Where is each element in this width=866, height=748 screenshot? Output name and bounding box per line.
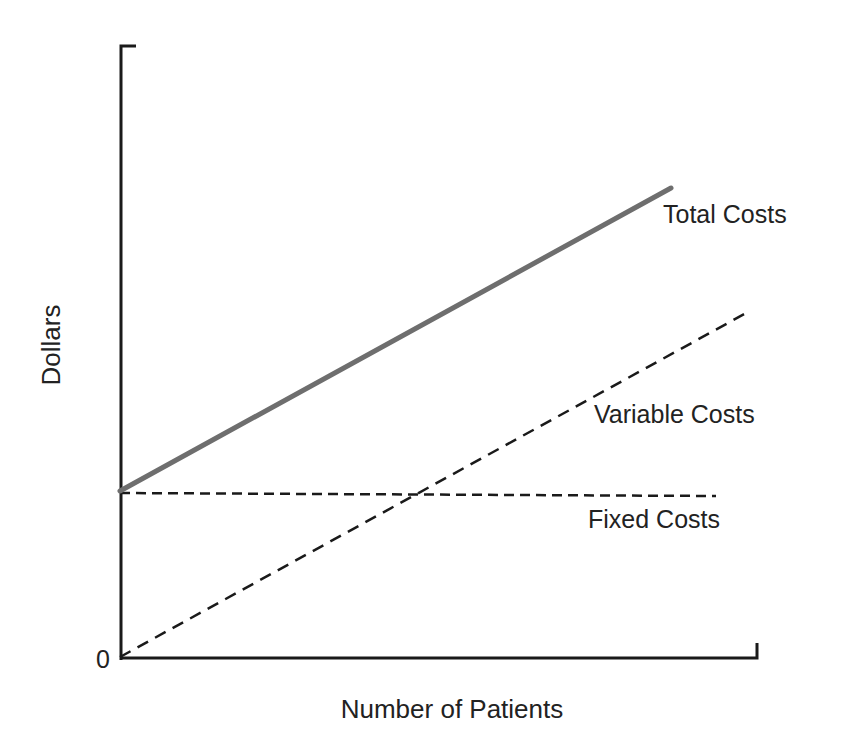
- y-axis: [121, 46, 136, 660]
- y-axis-label: Dollars: [36, 305, 66, 386]
- total-costs-line: [120, 188, 671, 491]
- origin-label: 0: [96, 645, 110, 673]
- variable-costs-line: [120, 312, 748, 657]
- x-axis: [121, 643, 757, 658]
- total-costs-label: Total Costs: [663, 200, 787, 228]
- fixed-costs-line: [120, 493, 716, 496]
- cost-chart: Total Costs Variable Costs Fixed Costs 0…: [0, 0, 866, 748]
- variable-costs-label: Variable Costs: [594, 400, 755, 428]
- x-axis-label: Number of Patients: [341, 694, 564, 724]
- fixed-costs-label: Fixed Costs: [588, 505, 720, 533]
